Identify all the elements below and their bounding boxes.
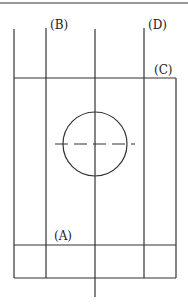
label-c: (C)	[154, 64, 173, 76]
diagram-canvas	[0, 0, 188, 307]
label-d: (D)	[148, 19, 167, 31]
label-a: (A)	[54, 230, 72, 242]
label-b: (B)	[50, 19, 68, 31]
